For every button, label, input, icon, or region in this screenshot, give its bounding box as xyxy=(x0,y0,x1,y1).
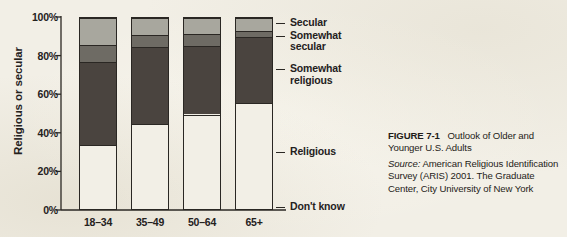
callout-secular-leader-line xyxy=(276,23,285,24)
callout-secular: Secular xyxy=(290,17,327,29)
caption-source-label: Source: xyxy=(388,158,420,169)
callout-religious-leader-line xyxy=(276,152,285,153)
callout-religious: Religious xyxy=(290,146,336,158)
caption-title-line: FIGURE 7-1 Outlook of Older and Younger … xyxy=(388,130,564,155)
figure-container: Religious or secular 100%80%60%40%20%0% … xyxy=(0,0,567,237)
figure-caption: FIGURE 7-1 Outlook of Older and Younger … xyxy=(388,130,564,195)
segment-callout-labels: SecularSomewhat secularSomewhat religiou… xyxy=(0,0,380,237)
callout-somewhat-secular-leader-line xyxy=(276,36,285,37)
callout-somewhat-religious: Somewhat religious xyxy=(290,63,341,86)
callout-dont-know-leader-line xyxy=(276,207,285,208)
callout-somewhat-secular: Somewhat secular xyxy=(290,30,341,53)
caption-figure-number: FIGURE 7-1 xyxy=(388,130,440,141)
callout-dont-know: Don't know xyxy=(290,201,345,213)
caption-source-line: Source: American Religious Identificatio… xyxy=(388,158,564,195)
callout-somewhat-religious-leader-line xyxy=(276,69,285,70)
